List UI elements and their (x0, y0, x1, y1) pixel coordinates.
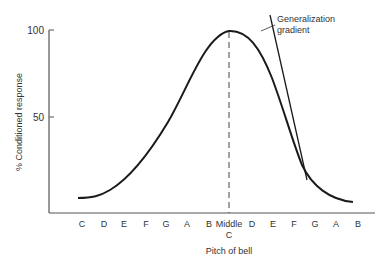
x-tick-middle: Middle (216, 219, 243, 229)
annotation-line1: Generalization (277, 14, 335, 24)
x-tick-e1: E (121, 219, 127, 229)
x-tick-d1: D (101, 219, 108, 229)
x-tick-labels: C D E F G A B Middle C D E F G A B (79, 219, 361, 240)
x-tick-g2: G (311, 219, 318, 229)
y-axis-label: % Conditioned response (14, 73, 24, 171)
x-tick-f1: F (143, 219, 149, 229)
tangent-line (270, 15, 307, 180)
x-tick-a1: A (184, 219, 190, 229)
y-tick-label-100: 100 (27, 25, 44, 36)
x-tick-b2: B (355, 219, 361, 229)
x-tick-c1: C (79, 219, 86, 229)
x-tick-g1: G (162, 219, 169, 229)
x-axis-label: Pitch of bell (206, 246, 253, 256)
x-tick-d2: D (249, 219, 256, 229)
annotation-line2: gradient (277, 25, 310, 35)
axes (49, 30, 375, 213)
x-tick-b1: B (206, 219, 212, 229)
response-curve (78, 31, 353, 202)
x-tick-a2: A (333, 219, 339, 229)
x-tick-e2: E (270, 219, 276, 229)
generalization-chart: 100 50 % Conditioned response Generaliza… (0, 0, 392, 264)
y-tick-label-50: 50 (33, 112, 45, 123)
x-tick-middle-c: C (226, 230, 233, 240)
x-tick-f2: F (291, 219, 297, 229)
